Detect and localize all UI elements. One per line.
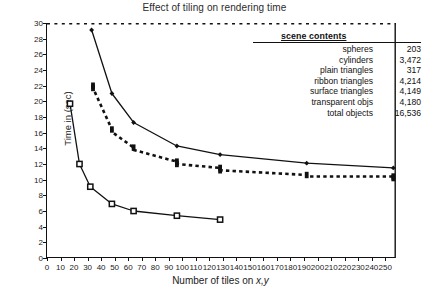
x-tick-label: 160 <box>257 263 270 272</box>
y-tick-label: 16 <box>21 128 43 137</box>
x-tick-label: 0 <box>45 263 49 272</box>
y-tick-label: 12 <box>21 160 43 169</box>
scene-contents-label: ribbon triangles <box>253 76 379 87</box>
y-tick-label: 10 <box>21 175 43 184</box>
y-tick-label: 14 <box>21 144 43 153</box>
x-tick-label: 220 <box>338 263 351 272</box>
x-tick-label: 240 <box>365 263 378 272</box>
series-line <box>70 104 220 220</box>
scene-contents-label: spheres <box>253 44 379 55</box>
x-tick-label: 250 <box>378 263 391 272</box>
data-point-marker <box>305 172 309 178</box>
scene-contents-row: cylinders3,472 <box>253 55 421 66</box>
x-tick-label: 210 <box>324 263 337 272</box>
x-tick-label: 70 <box>137 263 146 272</box>
data-point-marker <box>218 152 223 157</box>
chart-root: Effect of tiling on rendering time Time … <box>0 0 429 300</box>
x-tick-label: 200 <box>311 263 324 272</box>
scene-contents-heading: scene contents <box>253 31 421 43</box>
scene-contents-value: 317 <box>379 65 421 76</box>
x-tick-label: 180 <box>284 263 297 272</box>
scene-contents-annotation: scene contents spheres203cylinders3,472p… <box>253 31 421 118</box>
scene-contents-row: total objects16,536 <box>253 108 421 119</box>
y-tick-label: 26 <box>21 50 43 59</box>
y-tick-label: 2 <box>21 238 43 247</box>
y-tick-label: 30 <box>21 19 43 28</box>
y-tick-label: 28 <box>21 34 43 43</box>
data-point-marker <box>110 126 114 132</box>
scene-contents-value: 3,472 <box>379 55 421 66</box>
x-tick-label: 230 <box>351 263 364 272</box>
x-tick-label: 190 <box>297 263 310 272</box>
data-point-marker <box>88 184 93 189</box>
scene-contents-value: 4,149 <box>379 86 421 97</box>
scene-contents-row: surface triangles4,149 <box>253 86 421 97</box>
data-point-marker <box>91 85 95 91</box>
x-tick-label: 20 <box>70 263 79 272</box>
y-tick-label: 22 <box>21 81 43 90</box>
x-axis-label: Number of tiles on x,y <box>46 275 395 286</box>
x-tick-label: 150 <box>243 263 256 272</box>
x-tick-label: 130 <box>216 263 229 272</box>
scene-contents-value: 16,536 <box>379 108 421 119</box>
data-point-marker <box>89 28 94 33</box>
scene-contents-row: spheres203 <box>253 44 421 55</box>
scene-contents-value: 4,214 <box>379 76 421 87</box>
x-tick-label: 90 <box>164 263 173 272</box>
scene-contents-row: plain triangles317 <box>253 65 421 76</box>
scene-contents-label: transparent objs <box>253 97 379 108</box>
data-point-marker <box>174 213 179 218</box>
y-tick-label: 0 <box>21 254 43 263</box>
x-tick-label: 110 <box>189 263 202 272</box>
scene-contents-label: plain triangles <box>253 65 379 76</box>
x-tick-label: 60 <box>124 263 133 272</box>
scene-contents-label: total objects <box>253 108 379 119</box>
data-point-marker <box>175 144 180 149</box>
y-tick-label: 8 <box>21 191 43 200</box>
scene-contents-row: ribbon triangles4,214 <box>253 76 421 87</box>
data-point-marker <box>109 201 114 206</box>
y-tick-label: 6 <box>21 207 43 216</box>
scene-contents-value: 203 <box>379 44 421 55</box>
scene-contents-row: transparent objs4,180 <box>253 97 421 108</box>
scene-contents-label: cylinders <box>253 55 379 66</box>
data-point-marker <box>218 167 222 173</box>
x-tick-label: 30 <box>83 263 92 272</box>
data-point-marker <box>175 161 179 167</box>
data-point-marker <box>218 217 223 222</box>
data-point-marker <box>391 175 395 181</box>
series-lower-solid-open-square <box>67 101 222 222</box>
x-tick-label: 10 <box>56 263 65 272</box>
x-tick-label: 40 <box>97 263 106 272</box>
data-point-marker <box>131 208 136 213</box>
y-tick-label: 4 <box>21 222 43 231</box>
data-point-marker <box>67 101 72 106</box>
x-tick-label: 80 <box>151 263 160 272</box>
y-tick-label: 18 <box>21 113 43 122</box>
data-point-marker <box>132 144 136 150</box>
data-point-marker <box>77 161 82 166</box>
x-tick-label: 140 <box>230 263 243 272</box>
y-tick-label: 24 <box>21 66 43 75</box>
scene-contents-label: surface triangles <box>253 86 379 97</box>
scene-contents-value: 4,180 <box>379 97 421 108</box>
y-tick-label: 20 <box>21 97 43 106</box>
data-point-marker <box>304 161 309 166</box>
x-tick-label: 120 <box>203 263 216 272</box>
x-axis-label-text: Number of tiles on x,y <box>172 275 269 286</box>
scene-contents-rows: spheres203cylinders3,472plain triangles3… <box>253 44 421 118</box>
x-tick-label: 50 <box>110 263 119 272</box>
x-tick-label: 100 <box>176 263 189 272</box>
chart-title: Effect of tiling on rendering time <box>0 2 429 13</box>
x-tick-label: 170 <box>270 263 283 272</box>
